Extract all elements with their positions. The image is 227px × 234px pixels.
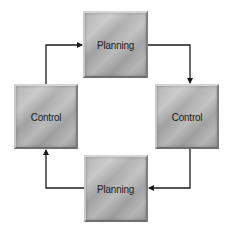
- node-label: Control: [172, 111, 203, 123]
- arrow-top-to-right: [148, 45, 190, 83]
- node-top-planning: Planning: [83, 11, 148, 78]
- node-left-control: Control: [14, 84, 78, 149]
- node-right-control: Control: [155, 84, 219, 149]
- arrow-left-to-top: [46, 45, 82, 84]
- node-label: Planning: [97, 183, 134, 195]
- node-label: Control: [31, 111, 62, 123]
- arrow-bottom-to-left: [46, 150, 84, 188]
- node-label: Planning: [97, 39, 134, 51]
- node-bottom-planning: Planning: [84, 155, 148, 222]
- planning-control-cycle-diagram: Planning Control Planning Control: [0, 0, 227, 234]
- arrow-right-to-bottom: [149, 149, 190, 188]
